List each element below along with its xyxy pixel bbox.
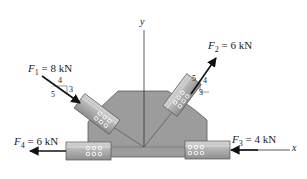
f2-slope-hyp: 5 — [192, 75, 196, 83]
member-f3 — [185, 141, 230, 159]
f2-slope-rise: 4 — [203, 77, 207, 85]
f4-symbol: F — [14, 135, 21, 147]
f1-slope-rise: 3 — [69, 86, 73, 94]
f4-value: 6 kN — [36, 135, 58, 147]
f3-eq: = — [243, 133, 255, 145]
f2-slope-run: 3 — [199, 89, 203, 97]
f1-symbol: F — [28, 62, 35, 74]
f1-slope-triangle — [53, 86, 67, 95]
f2-symbol: F — [208, 39, 215, 51]
f1-slope-run: 4 — [58, 77, 62, 85]
f1-slope-hyp: 5 — [51, 91, 55, 99]
f2-eq: = — [219, 39, 231, 51]
member-f4 — [66, 142, 111, 160]
f3-label: F3 = 4 kN — [232, 134, 276, 148]
f1-eq: = — [39, 62, 51, 74]
f3-value: 4 kN — [254, 133, 276, 145]
diagram-canvas — [0, 0, 307, 179]
f1-value: 8 kN — [50, 62, 72, 74]
x-axis-label: x — [292, 143, 296, 153]
f1-label: F1 = 8 kN — [28, 63, 72, 77]
f4-label: F4 = 6 kN — [14, 136, 58, 150]
f2-label: F2 = 6 kN — [208, 40, 252, 54]
f4-eq: = — [25, 135, 37, 147]
f3-symbol: F — [232, 133, 239, 145]
y-axis-label: y — [140, 17, 144, 27]
f2-value: 6 kN — [230, 39, 252, 51]
